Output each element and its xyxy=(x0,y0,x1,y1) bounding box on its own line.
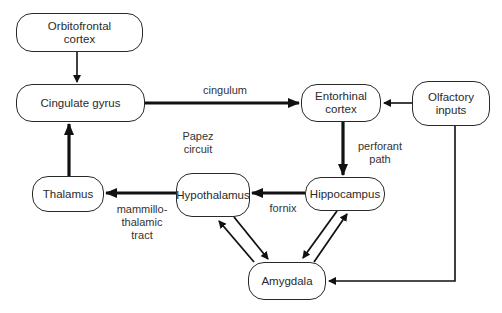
label-papez-circuit: Papez circuit xyxy=(176,130,220,156)
edge-hypothalamus-amygdala xyxy=(234,217,268,259)
label-fornix: fornix xyxy=(263,202,303,215)
node-orbitofrontal-cortex: Orbitofrontal cortex xyxy=(16,13,143,52)
node-olfactory-inputs: Olfactory inputs xyxy=(412,81,490,126)
node-entorhinal-cortex: Entorhinal cortex xyxy=(301,84,381,122)
node-cingulate-gyrus: Cingulate gyrus xyxy=(16,84,145,122)
node-amygdala: Amygdala xyxy=(248,262,326,300)
node-thalamus: Thalamus xyxy=(32,176,104,212)
label-cingulum: cingulum xyxy=(190,84,260,97)
node-hippocampus: Hippocampus xyxy=(305,177,385,211)
label-mammillothalamic-tract: mammillo- thalamic tract xyxy=(110,203,174,242)
label-perforant-path: perforant path xyxy=(350,140,410,166)
edge-amygdala-hypothalamus xyxy=(219,221,254,262)
node-hypothalamus: Hypothalamus xyxy=(176,173,250,217)
